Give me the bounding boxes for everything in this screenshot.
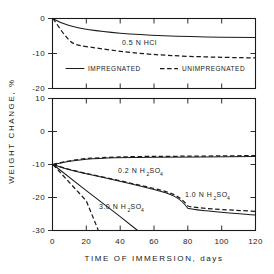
- annotation-30n-mid: SO: [131, 203, 142, 210]
- xtick-20: 20: [81, 237, 91, 246]
- annotation-10n-main: 1.0 N H: [185, 191, 212, 198]
- annotation-30n-sub2: 4: [141, 207, 144, 213]
- bottom-ytick-minus30: -30: [32, 226, 45, 235]
- xtick-60: 60: [149, 237, 159, 246]
- xtick-80: 80: [183, 237, 193, 246]
- annotation-10n-mid: SO: [217, 191, 228, 198]
- xtick-100: 100: [214, 237, 229, 246]
- xtick-0: 0: [50, 237, 55, 246]
- legend-label-unimpregnated: UNIMPREGNATED: [182, 65, 245, 72]
- weight-change-figure: 0 -10 -20 0.5 N HCl IMPREGNATED UNIMPREG…: [0, 0, 274, 274]
- annotation-10n-sub2: 4: [227, 195, 230, 201]
- top-ytick-minus20: -20: [32, 84, 45, 93]
- annotation-02n-main: 0.2 N H: [118, 167, 145, 174]
- x-axis-title: TIME OF IMMERSION, days: [84, 254, 223, 263]
- chart-svg: 0 -10 -20 0.5 N HCl IMPREGNATED UNIMPREG…: [0, 0, 274, 274]
- bottom-ytick-0: 0: [40, 127, 45, 136]
- legend-label-impregnated: IMPREGNATED: [88, 65, 141, 72]
- annotation-30n-main: 3.0 N H: [99, 203, 126, 210]
- bottom-ytick-10: 10: [35, 94, 45, 103]
- y-axis-title: WEIGHT CHANGE, %: [7, 78, 16, 183]
- xtick-120: 120: [248, 237, 263, 246]
- xtick-40: 40: [115, 237, 125, 246]
- annotation-02n-mid: SO: [150, 167, 161, 174]
- top-ytick-0: 0: [40, 14, 45, 23]
- top-ytick-minus10: -10: [32, 49, 45, 58]
- annotation-02n-sub2: 4: [160, 171, 163, 177]
- bottom-ytick-minus10: -10: [32, 160, 45, 169]
- annotation-hcl: 0.5 N HCl: [122, 39, 157, 46]
- bottom-ytick-minus20: -20: [32, 193, 45, 202]
